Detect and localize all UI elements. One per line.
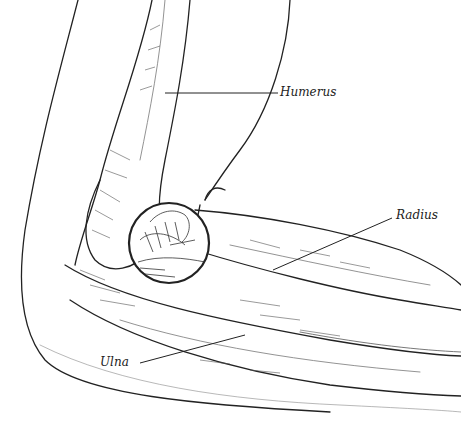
arm-outline-inner bbox=[205, 0, 290, 200]
radius-label: Radius bbox=[396, 208, 438, 222]
elbow-anatomy-diagram: Humerus Radius Ulna bbox=[0, 0, 461, 431]
joint-magnifier bbox=[129, 203, 209, 283]
elbow-illustration bbox=[0, 0, 461, 431]
radius-leader-line bbox=[273, 218, 392, 270]
humerus-label: Humerus bbox=[280, 85, 336, 99]
ulna-label: Ulna bbox=[100, 355, 129, 369]
